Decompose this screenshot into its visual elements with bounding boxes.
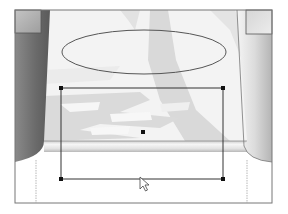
shelf-band <box>44 141 247 152</box>
resize-handle-icon[interactable] <box>221 177 225 181</box>
center-handle-icon[interactable] <box>141 130 145 134</box>
drawing-canvas[interactable] <box>0 0 288 214</box>
resize-handle-icon[interactable] <box>59 86 63 90</box>
resize-handle-icon[interactable] <box>59 177 63 181</box>
resize-handle-icon[interactable] <box>221 86 225 90</box>
